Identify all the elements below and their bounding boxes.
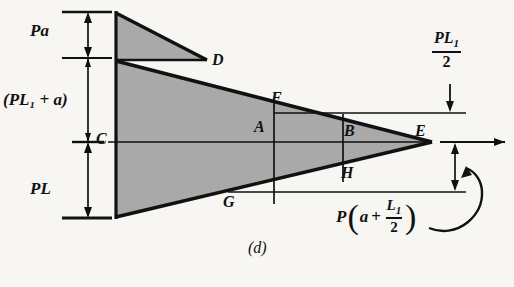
point-label-F: F — [271, 90, 282, 106]
point-label-E: E — [415, 123, 426, 139]
point-label-D: D — [212, 52, 224, 68]
moment-bottom-plus: + — [368, 208, 384, 225]
dim-pa-arrow-up — [84, 12, 92, 23]
point-label-B: B — [344, 123, 355, 139]
right-gap-arrow-up — [451, 143, 459, 154]
dimension-label-pl1-plus-a: (PL₁ + a) — [3, 91, 68, 108]
moment-bottom-p: P — [336, 208, 346, 225]
figure-caption: (d) — [248, 240, 267, 256]
moment-bottom-denominator: 2 — [390, 220, 398, 235]
dim-pl-arrow-down — [84, 207, 92, 218]
moment-bottom-a: a — [360, 208, 369, 225]
moment-bottom-close-paren: ) — [404, 203, 417, 231]
moment-top-denominator: 2 — [432, 54, 461, 71]
right-gap-arrow-down — [451, 180, 459, 191]
axis-arrow-head — [494, 138, 505, 146]
dim-pl-arrow-up — [84, 142, 92, 153]
point-label-A: A — [254, 119, 265, 135]
curved-moment-arrow-head — [461, 166, 472, 178]
point-label-C: C — [96, 131, 107, 147]
dim-pa-arrow-down — [84, 47, 92, 58]
moment-top-numerator: PL1 — [432, 30, 461, 50]
point-label-H: H — [341, 165, 353, 181]
moment-top-arrow-head — [446, 101, 454, 112]
moment-top-annotation: PL1 2 — [432, 30, 461, 71]
dimension-label-pa: Pa — [30, 22, 49, 39]
moment-bottom-fraction: L1 2 — [386, 198, 402, 236]
moment-bottom-annotation: P ( a + L1 2 ) — [336, 198, 417, 236]
moment-bottom-open-paren: ( — [346, 203, 359, 231]
point-label-G: G — [223, 194, 235, 210]
moment-diagram-figure: D F A B E C H G Pa (PL₁ + a) PL PL1 2 P … — [0, 0, 514, 287]
dimension-label-pl: PL — [30, 180, 51, 197]
dim-pl1a-arrow-down — [85, 133, 91, 142]
moment-bottom-numerator: L1 — [387, 198, 402, 216]
dim-pl1a-arrow-up — [85, 58, 91, 67]
